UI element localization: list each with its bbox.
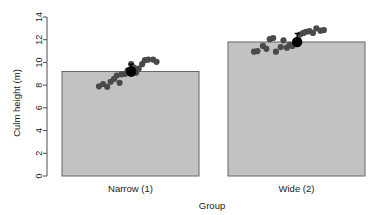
data-point xyxy=(280,37,286,43)
data-point xyxy=(321,27,327,33)
chart-container: 02468101214 Narrow (1)Wide (2) Group Cul… xyxy=(0,0,380,215)
y-tick-label: 10 xyxy=(34,57,44,67)
bar-wide xyxy=(228,42,365,176)
y-axis: 02468101214 xyxy=(34,12,47,179)
data-point xyxy=(153,59,159,65)
data-point xyxy=(270,35,276,41)
data-point xyxy=(254,48,260,54)
culm-height-bar-chart: 02468101214 Narrow (1)Wide (2) Group Cul… xyxy=(0,0,380,215)
y-axis-title: Culm height (m) xyxy=(11,69,22,137)
y-tick-label: 14 xyxy=(34,12,44,22)
data-point xyxy=(104,84,110,90)
mean-marker xyxy=(292,37,302,47)
data-point xyxy=(263,46,269,52)
bars-group xyxy=(62,42,365,176)
x-category-label: Wide (2) xyxy=(279,183,315,194)
y-tick-label: 6 xyxy=(34,105,44,110)
data-point xyxy=(278,44,284,50)
x-axis-title: Group xyxy=(199,200,225,211)
y-tick-label: 8 xyxy=(34,83,44,88)
y-tick-label: 2 xyxy=(34,151,44,156)
y-tick-label: 12 xyxy=(34,35,44,45)
y-tick-label: 4 xyxy=(34,128,44,133)
data-point xyxy=(116,80,122,86)
bar-narrow xyxy=(62,72,199,176)
category-labels-group: Narrow (1)Wide (2) xyxy=(108,183,314,194)
y-tick-label: 0 xyxy=(34,173,44,178)
mean-marker xyxy=(126,66,136,76)
data-point xyxy=(273,49,279,55)
x-category-label: Narrow (1) xyxy=(108,183,153,194)
